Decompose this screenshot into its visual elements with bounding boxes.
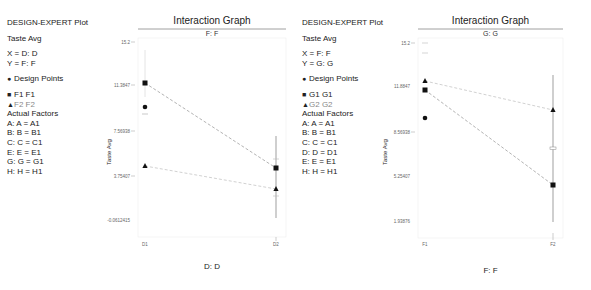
series-f2-line (145, 166, 276, 189)
design-point-icon (423, 116, 428, 121)
y-tick: 11.8847 (394, 84, 410, 89)
left-plot-area: 15.2 11.3847 7.56938 3.75407 -0.0612415 … (0, 0, 295, 290)
square-marker-icon (143, 81, 148, 86)
triangle-marker-icon (142, 163, 147, 168)
design-point-icon (143, 105, 148, 110)
y-tick: 15.2 (121, 40, 130, 45)
series-g2-line (425, 81, 553, 110)
triangle-marker-icon (550, 107, 555, 112)
y-tick: 8.56938 (394, 130, 411, 135)
x-tick: D2 (273, 242, 279, 247)
square-marker-icon (423, 88, 428, 93)
square-marker-icon (551, 183, 556, 188)
y-tick: 7.56938 (114, 129, 131, 134)
y-tick: -0.0612415 (107, 218, 130, 223)
left-plot-panel: DESIGN-EXPERT Plot Taste Avg X = D: D Y … (0, 0, 295, 290)
square-marker-icon (274, 166, 279, 171)
x-tick: F2 (550, 242, 556, 247)
y-tick: 5.25407 (394, 174, 411, 179)
right-plot-panel: DESIGN-EXPERT Plot Taste Avg X = F: F Y … (295, 0, 591, 290)
x-tick: F1 (422, 242, 428, 247)
series-g1-line (425, 90, 553, 185)
y-tick: 1.93876 (394, 219, 411, 224)
right-plot-area: 15.2 11.8847 8.56938 5.25407 1.93876 F1 … (295, 0, 591, 290)
y-tick: 3.75407 (114, 174, 131, 179)
series-f1-line (145, 83, 276, 168)
y-tick: 15.2 (401, 41, 410, 46)
x-tick: D1 (142, 242, 148, 247)
y-tick: 11.3847 (114, 83, 130, 88)
triangle-marker-icon (422, 78, 427, 83)
